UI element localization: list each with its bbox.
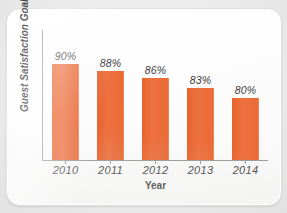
bar-2011[interactable] <box>97 71 124 160</box>
x-tick-label-2013: 2013 <box>178 164 223 176</box>
x-axis-title: Year <box>43 180 268 191</box>
bar-slot: 80% <box>223 30 268 160</box>
bar-2013[interactable] <box>187 88 214 160</box>
plot-area: 90% 88% 86% 83% <box>42 30 268 161</box>
y-axis-title: Guest Satisfaction Goal <box>19 0 30 121</box>
bar-slot: 90% <box>43 30 88 160</box>
bar-2010[interactable] <box>52 64 79 160</box>
bar-slot: 88% <box>88 30 133 160</box>
bar-slot: 86% <box>133 30 178 160</box>
bar-chart: Guest Satisfaction Goal 90% 88% 86% <box>6 8 280 204</box>
x-tick-label-2012: 2012 <box>133 164 178 176</box>
bar-value-label: 86% <box>133 64 178 76</box>
scanned-page: Guest Satisfaction Goal 90% 88% 86% <box>0 0 287 213</box>
bar-series: 90% 88% 86% 83% <box>43 30 268 160</box>
bar-value-label: 90% <box>43 50 88 62</box>
bar-slot: 83% <box>178 30 223 160</box>
x-tick-label-2014: 2014 <box>223 164 268 176</box>
x-axis-tick-labels: 2010 2011 2012 2013 2014 <box>43 164 268 176</box>
bar-2014[interactable] <box>232 98 259 160</box>
bar-2012[interactable] <box>142 78 169 160</box>
bar-value-label: 88% <box>88 57 133 69</box>
x-tick-label-2010: 2010 <box>43 164 88 176</box>
bar-value-label: 80% <box>223 84 268 96</box>
bar-value-label: 83% <box>178 74 223 86</box>
x-tick-label-2011: 2011 <box>88 164 133 176</box>
